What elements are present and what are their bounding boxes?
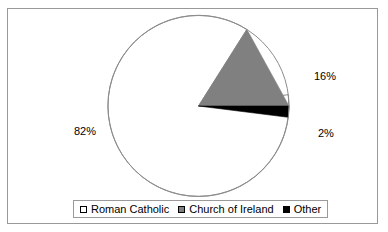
legend-swatch-roman-catholic	[80, 206, 87, 213]
legend-item-roman-catholic[interactable]: Roman Catholic	[80, 204, 169, 215]
legend-swatch-other	[283, 206, 290, 213]
pie-chart-figure: 16% 2% 82% Roman Catholic Church of Irel…	[0, 0, 388, 232]
legend-item-other[interactable]: Other	[283, 204, 322, 215]
legend-label-church-of-ireland: Church of Ireland	[189, 204, 273, 215]
legend-swatch-church-of-ireland	[178, 206, 185, 213]
legend-item-church-of-ireland[interactable]: Church of Ireland	[178, 204, 273, 215]
chart-frame	[7, 8, 378, 224]
pie-label-roman-catholic: 82%	[74, 126, 96, 137]
legend-label-other: Other	[294, 204, 322, 215]
pie-label-other: 2%	[318, 128, 334, 139]
chart-legend: Roman Catholic Church of Ireland Other	[73, 200, 328, 218]
legend-label-roman-catholic: Roman Catholic	[91, 204, 169, 215]
pie-label-church-of-ireland: 16%	[314, 71, 336, 82]
